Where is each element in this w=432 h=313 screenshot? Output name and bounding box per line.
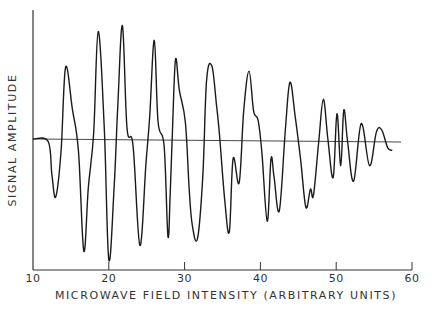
x-tick-label: 50 bbox=[329, 272, 344, 285]
x-axis-label: MICROWAVE FIELD INTENSITY (ARBITRARY UNI… bbox=[0, 289, 432, 302]
x-tick-label: 40 bbox=[253, 272, 268, 285]
plot-area bbox=[0, 0, 432, 313]
signal-trace bbox=[33, 25, 392, 261]
x-tick-label: 20 bbox=[101, 272, 116, 285]
zero-baseline bbox=[33, 139, 401, 142]
x-tick-label: 30 bbox=[177, 272, 192, 285]
x-tick-label: 10 bbox=[26, 272, 41, 285]
x-tick-label: 60 bbox=[405, 272, 420, 285]
y-axis-label: SIGNAL AMPLITUDE bbox=[6, 74, 19, 207]
x-ticks bbox=[109, 262, 412, 270]
